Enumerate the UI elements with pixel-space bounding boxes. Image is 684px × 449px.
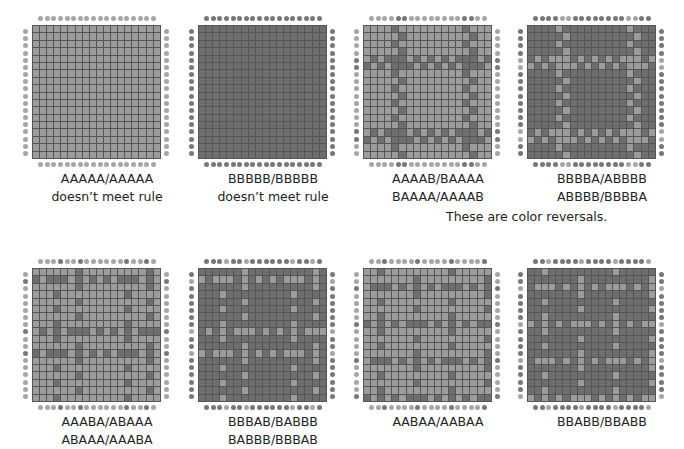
weave-cell — [578, 313, 584, 319]
weave-cell — [592, 85, 598, 91]
weave-cell — [478, 269, 484, 275]
weave-cell — [449, 269, 455, 275]
weave-cell — [277, 306, 283, 312]
weave-cell — [40, 291, 46, 297]
weave-cell — [298, 284, 304, 290]
weave-cell — [613, 122, 619, 128]
weave-cell — [270, 380, 276, 386]
weave-cell — [392, 343, 398, 349]
thread-dot — [442, 16, 447, 21]
weave-cell — [270, 41, 276, 47]
weave-cell — [154, 358, 160, 364]
weave-cell — [478, 33, 484, 39]
weave-cell — [571, 306, 577, 312]
weave-cell — [585, 350, 591, 356]
weave-cell — [571, 350, 577, 356]
weave-cell — [147, 328, 153, 334]
weave-cell — [277, 291, 283, 297]
weave-cell — [535, 93, 541, 99]
weave-cell — [470, 328, 476, 334]
weave-cell — [528, 63, 534, 69]
weave-cell — [263, 395, 269, 401]
weave-cell — [227, 365, 233, 371]
weave-cell — [414, 41, 420, 47]
weave-cell — [97, 63, 103, 69]
weave-cell — [284, 85, 290, 91]
weave-cell — [542, 56, 548, 62]
thread-dot — [415, 259, 420, 264]
weave-cell — [132, 387, 138, 393]
thread-dot — [244, 16, 249, 21]
thread-dot — [639, 16, 644, 21]
weave-cell — [399, 129, 405, 135]
weave-cell — [298, 26, 304, 32]
weave-cell — [535, 137, 541, 143]
thread-dot — [217, 259, 222, 264]
weave-cell — [634, 100, 640, 106]
thread-dot — [330, 358, 335, 363]
thread-dot — [409, 259, 414, 264]
weave-cell — [470, 343, 476, 349]
thread-color-dots-vertical — [495, 272, 500, 399]
weave-cell — [371, 33, 377, 39]
weave-cell — [414, 343, 420, 349]
weave-cell — [83, 48, 89, 54]
thread-dot — [189, 144, 194, 149]
weave-cell — [147, 380, 153, 386]
weave-cell — [634, 365, 640, 371]
weave-cell — [242, 321, 248, 327]
weave-cell — [634, 380, 640, 386]
thread-dot — [257, 405, 262, 410]
weave-cell — [206, 343, 212, 349]
weave-cell — [642, 137, 648, 143]
weave-cell — [478, 380, 484, 386]
thread-dot — [204, 259, 209, 264]
weave-cell — [139, 48, 145, 54]
thread-dot — [462, 162, 467, 167]
weave-cell — [585, 26, 591, 32]
weave-cell — [606, 115, 612, 121]
weave-cell — [90, 93, 96, 99]
weave-cell — [385, 269, 391, 275]
weave-cell — [147, 56, 153, 62]
weave-cell — [305, 276, 311, 282]
weave-cell — [563, 41, 569, 47]
weave-cell — [407, 291, 413, 297]
weave-cell — [556, 380, 562, 386]
thread-dot — [659, 108, 664, 113]
weave-cell — [528, 33, 534, 39]
weave-cell — [378, 284, 384, 290]
weave-cell — [571, 380, 577, 386]
weave-cell — [104, 284, 110, 290]
thread-dot — [164, 272, 169, 277]
weave-cell — [270, 122, 276, 128]
thread-dot — [495, 380, 500, 385]
weave-cell — [256, 137, 262, 143]
weave-cell — [528, 313, 534, 319]
weave-cell — [649, 115, 655, 121]
weave-cell — [563, 313, 569, 319]
weave-cell — [270, 321, 276, 327]
weave-cell — [227, 26, 233, 32]
weave-cell — [83, 122, 89, 128]
thread-dot — [164, 137, 169, 142]
thread-dot — [540, 405, 545, 410]
thread-dot — [533, 162, 538, 167]
weave-cell — [263, 336, 269, 342]
weave-cell — [305, 93, 311, 99]
weave-cell — [76, 78, 82, 84]
weave-cell — [199, 129, 205, 135]
weave-cell — [634, 387, 640, 393]
weave-cell — [213, 78, 219, 84]
weave-cell — [277, 365, 283, 371]
weave-cell — [227, 144, 233, 150]
weave-cell — [378, 276, 384, 282]
thread-dot — [98, 162, 103, 167]
weave-cell — [305, 365, 311, 371]
weave-cell — [478, 372, 484, 378]
weave-cell — [407, 328, 413, 334]
weave-cell — [213, 350, 219, 356]
weave-cell — [125, 336, 131, 342]
thread-dot — [118, 162, 123, 167]
thread-dot — [593, 16, 598, 21]
